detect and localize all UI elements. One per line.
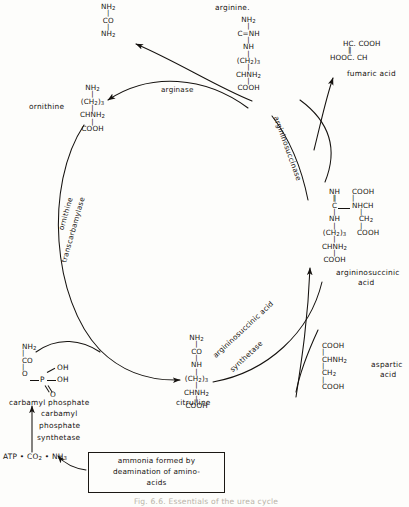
label-argininosuccinic-acid-line2: acid: [358, 278, 374, 287]
label-arginine: arginine.: [215, 3, 250, 12]
arrow-to-argininosuccinic: [296, 268, 310, 397]
annotation-line3: acids: [94, 478, 219, 489]
label-substrates: ATP • CO2 • NH3: [3, 452, 67, 461]
atom-phosphorus: P: [40, 375, 45, 384]
annotation-line1: ammonia formed by: [94, 456, 219, 467]
arc-ornithine-transcarbamylase: [58, 125, 100, 350]
label-aspartic-acid-line1: aspartic: [371, 360, 403, 369]
molecule-ornithine: NH2 | (CH2)3 | CHNH2 | COOH: [80, 84, 105, 133]
enzyme-arginase: arginase: [161, 85, 194, 94]
label-aspartic-acid-line2: acid: [380, 370, 396, 379]
annotation-box: ammonia formed by deamination of amino- …: [88, 452, 225, 493]
arrow-to-fumarate: [314, 78, 333, 150]
molecule-argininosuccinic-acid-backbone: NH ‖ C | NH | (CH2)3 | CHNH2 | COOH: [322, 188, 347, 265]
annotation-line2: deamination of amino-: [94, 467, 219, 478]
molecule-argininosuccinic-acid-branch: COOH | NHCH | CH2 | COOH: [352, 188, 379, 237]
arc-argininosuccinase-lower: [300, 100, 331, 182]
enzyme-carbamyl-phosphate-synthetase-line3: synthetase: [37, 433, 80, 442]
arrow-to-urea: [136, 44, 252, 101]
label-citrulline: citrulline: [176, 398, 211, 407]
group-oh-upper: OH: [57, 363, 69, 372]
label-fumaric-acid: fumaric acid: [347, 69, 396, 78]
group-oh-lower: OH: [57, 375, 69, 384]
bond-c-to-nhch: [338, 208, 350, 209]
bond-o-to-p: [30, 380, 39, 381]
figure-caption: Fig. 6.6. Essentials of the urea cycle: [134, 497, 278, 506]
molecule-aspartic-acid: COOH | CHNH2 | CH2 | COOH: [322, 342, 347, 391]
molecule-urea: NH2 | CO | NH2: [101, 3, 116, 39]
urea-cycle-figure: NH2 | CO | NH2 arginine. NH2 | C=NH | NH…: [0, 0, 409, 507]
enzyme-carbamyl-phosphate-synthetase-line1: carbamyl: [41, 409, 77, 418]
enzyme-carbamyl-phosphate-synthetase-line2: phosphate: [39, 421, 80, 430]
label-carbamyl-phosphate: carbamyl phosphate: [9, 398, 89, 407]
arc-to-citrulline: [100, 350, 180, 380]
molecule-arginine: NH2 | C=NH | NH | (CH2)3 | CHNH2 | COOH: [236, 16, 261, 93]
label-argininosuccinic-acid-line1: argininosuccinic: [336, 268, 400, 277]
molecule-fumaric-acid: HC. COOH ‖ HOOC. CH: [330, 40, 381, 62]
arc-aspartate-in: [296, 330, 318, 392]
arrow-carbamyl-to-citrulline: [36, 341, 100, 352]
label-ornithine: ornithine: [29, 102, 64, 111]
molecule-carbamyl-phosphate: NH2 | CO | O: [22, 343, 37, 379]
bond-p-to-oh-lower: [47, 380, 56, 381]
